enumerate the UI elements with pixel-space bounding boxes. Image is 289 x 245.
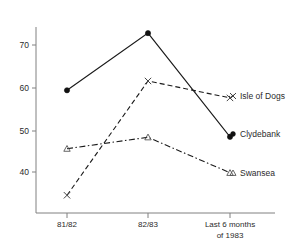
- series-label-swansea: Swansea: [240, 168, 275, 178]
- y-tick-label-60: 60: [20, 83, 30, 93]
- x-tick-label-0: 81/82: [57, 220, 78, 229]
- y-tick-label-50: 50: [20, 126, 30, 136]
- series-markers-swansea: [64, 134, 233, 175]
- data-point-isle-of-dogs-1: [145, 78, 151, 84]
- series-line-swansea: [67, 137, 230, 173]
- x-tick-label-2-line1: Last 6 months: [205, 220, 255, 229]
- legend-marker-isle-of-dogs: [230, 93, 236, 99]
- series-markers-isle-of-dogs: [64, 78, 233, 199]
- y-tick-label-40: 40: [20, 167, 30, 177]
- data-point-swansea-1: [145, 134, 151, 140]
- series-markers-clydebank: [64, 31, 232, 140]
- series-line-isle-of-dogs: [67, 81, 230, 195]
- x-tick-label-1: 82/83: [138, 220, 159, 229]
- data-point-isle-of-dogs-0: [64, 192, 70, 198]
- line-chart: 70 60 50 40 81/82 82/83 Last 6 months of…: [0, 0, 289, 245]
- y-tick-label-70: 70: [20, 40, 30, 50]
- series-label-isle-of-dogs: Isle of Dogs: [240, 91, 285, 101]
- chart-plot-area: 70 60 50 40 81/82 82/83 Last 6 months of…: [0, 0, 289, 245]
- chart-axes: [36, 27, 275, 213]
- data-point-clydebank-0: [64, 88, 69, 93]
- legend-marker-clydebank: [231, 132, 236, 137]
- data-point-clydebank-1: [145, 31, 150, 36]
- series-line-clydebank: [67, 33, 230, 137]
- series-label-clydebank: Clydebank: [240, 129, 281, 139]
- x-tick-label-2-line2: of 1983: [217, 231, 244, 240]
